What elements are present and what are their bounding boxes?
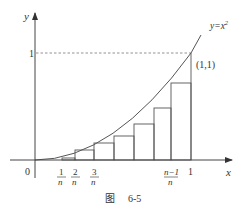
svg-text:n: n: [91, 177, 96, 187]
rect-7: [171, 83, 191, 160]
rect-6: [154, 108, 171, 160]
rect-4: [114, 136, 134, 160]
svg-text:n: n: [58, 177, 63, 187]
parabola-curve: [35, 35, 201, 160]
rect-5: [134, 124, 154, 160]
point-label: (1,1): [196, 59, 215, 71]
curve-label: y=x2: [209, 19, 229, 31]
tick-n-minus-1-over-n: n−1 n: [164, 167, 179, 187]
origin-label: 0: [25, 166, 30, 177]
x-tick-one-label: 1: [188, 166, 193, 177]
svg-text:2: 2: [73, 167, 78, 177]
svg-text:n−1: n−1: [164, 167, 179, 177]
figure-caption-prefix: 图: [105, 193, 115, 204]
y-axis-label: y: [23, 10, 29, 22]
rect-3: [94, 143, 114, 160]
svg-text:3: 3: [92, 167, 97, 177]
figure-caption-number: 6-5: [128, 193, 141, 204]
svg-text:1: 1: [59, 167, 64, 177]
riemann-sum-figure: y x 0 1 1 y=x2 (1,1) 1 n 2 n 3 n n−1 n 图…: [0, 0, 241, 217]
riemann-rectangles: [62, 83, 191, 160]
svg-text:n: n: [72, 177, 77, 187]
svg-text:n: n: [168, 177, 173, 187]
tick-1-over-n: 1 n: [57, 167, 66, 187]
x-axis-label: x: [225, 166, 231, 178]
tick-2-over-n: 2 n: [71, 167, 80, 187]
y-tick-one-label: 1: [29, 48, 34, 59]
tick-3-over-n: 3 n: [90, 167, 99, 187]
